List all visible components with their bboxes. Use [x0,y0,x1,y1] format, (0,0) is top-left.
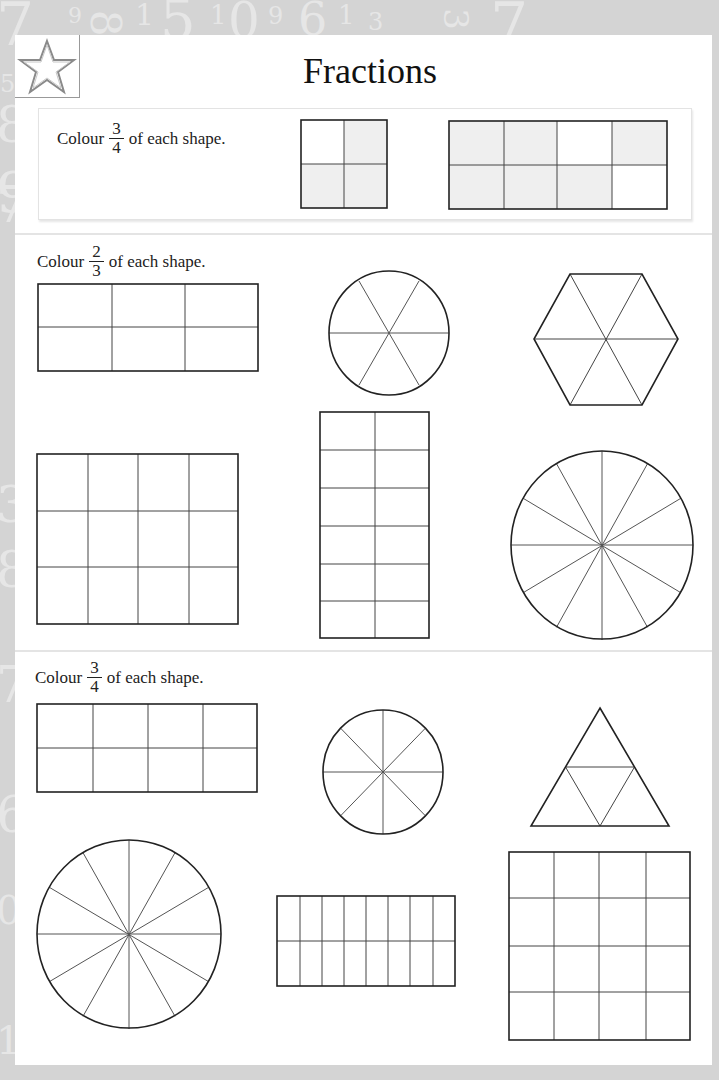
shape-grid-2x4[interactable] [37,704,257,792]
fraction-numerator: 3 [109,120,124,139]
bg-number: 1 [338,2,355,28]
bg-number: 8 [84,10,126,37]
page-title: Fractions [80,50,660,92]
instruction-prefix: Colour [37,252,84,272]
example-square-grid [301,120,387,208]
instruction-prefix: Colour [57,129,104,149]
bg-number: 3 [439,8,473,30]
fraction-numerator: 3 [87,659,102,678]
fraction: 3 4 [87,659,102,696]
instruction-suffix: of each shape. [107,668,204,688]
shape-circle-12[interactable] [511,451,693,640]
star-badge [15,35,80,98]
fraction: 3 4 [109,120,124,157]
bg-number: 1 [210,2,227,28]
fraction: 2 3 [89,243,104,280]
shape-circle-6[interactable] [329,271,449,395]
section-divider [15,650,712,652]
shape-triangle-4[interactable] [531,708,669,826]
section-divider [15,233,712,235]
shape-grid-6x2[interactable] [320,412,429,638]
fraction-denominator: 4 [112,139,121,157]
bg-number: 5 [0,72,15,96]
shape-circle-12-bottom[interactable] [37,840,221,1029]
section-2-instruction: Colour 3 4 of each shape. [35,659,204,696]
fraction-denominator: 3 [92,262,101,280]
shape-circle-8[interactable] [323,710,443,834]
instruction-suffix: of each shape. [109,252,206,272]
shape-grid-3x4[interactable] [37,454,238,624]
example-instruction: Colour 3 4 of each shape. [57,120,226,157]
section-1-instruction: Colour 2 3 of each shape. [37,243,206,280]
bg-number: 9 [268,4,283,28]
shape-grid-4x4[interactable] [509,852,690,1040]
bg-number: 9 [68,5,82,27]
shape-grid-2x3[interactable] [38,284,258,371]
fraction-denominator: 4 [90,678,99,696]
instruction-suffix: of each shape. [129,129,226,149]
example-rectangle-grid [449,121,667,209]
fraction-numerator: 2 [89,243,104,262]
bg-number: 1 [135,0,154,30]
bg-number: 3 [368,10,383,34]
shape-hexagon-6[interactable] [534,274,678,405]
shape-grid-2x8[interactable] [277,896,455,986]
instruction-prefix: Colour [35,668,82,688]
star-icon [15,35,79,97]
